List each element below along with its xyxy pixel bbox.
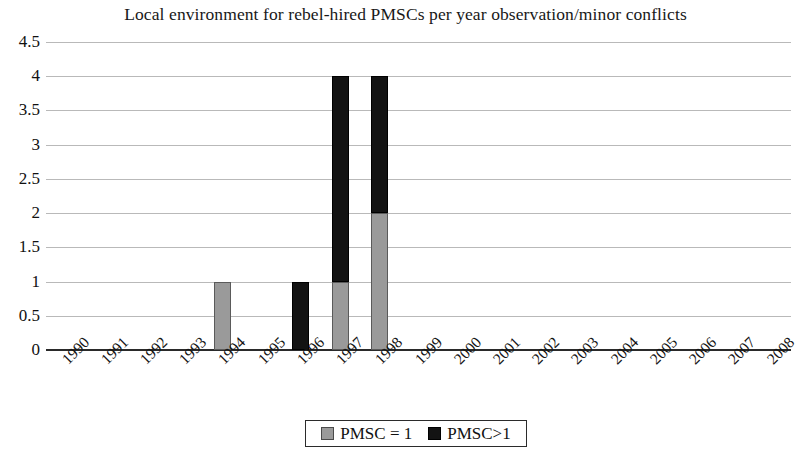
bars-layer	[46, 42, 791, 350]
x-axis-tick-labels: 1990199119921993199419951996199719981999…	[46, 352, 791, 402]
bar-segment-1997-pmsc-gt-1[interactable]	[332, 76, 349, 281]
y-tick-label: 1.5	[0, 238, 40, 255]
y-tick-label: 3.5	[0, 101, 40, 118]
y-tick-label: 0	[0, 341, 40, 358]
chart-title: Local environment for rebel-hired PMSCs …	[0, 4, 811, 25]
y-tick-label: 1	[0, 273, 40, 290]
legend-item-pmsc-gt-1[interactable]: PMSC>1	[428, 425, 510, 442]
chart-legend: PMSC = 1PMSC>1	[305, 420, 527, 447]
gray-swatch	[321, 427, 334, 440]
bar-group-1996[interactable]	[292, 282, 309, 350]
bar-segment-1996-pmsc-gt-1[interactable]	[292, 282, 309, 350]
y-tick-label: 2	[0, 204, 40, 221]
legend-label: PMSC>1	[447, 425, 510, 442]
y-axis-tick-labels: 4.543.532.521.510.50	[0, 42, 40, 350]
bar-group-1998[interactable]	[371, 76, 388, 350]
black-swatch	[428, 427, 441, 440]
legend-label: PMSC = 1	[340, 425, 412, 442]
y-tick-label: 2.5	[0, 170, 40, 187]
y-tick-label: 4	[0, 67, 40, 84]
bar-segment-1998-pmsc-gt-1[interactable]	[371, 76, 388, 213]
bar-group-1997[interactable]	[332, 76, 349, 350]
plot-area	[46, 42, 791, 350]
legend-item-pmsc-eq-1[interactable]: PMSC = 1	[321, 425, 412, 442]
y-tick-label: 4.5	[0, 33, 40, 50]
bar-segment-1998-pmsc-eq-1[interactable]	[371, 213, 388, 350]
y-tick-label: 0.5	[0, 307, 40, 324]
y-tick-label: 3	[0, 136, 40, 153]
